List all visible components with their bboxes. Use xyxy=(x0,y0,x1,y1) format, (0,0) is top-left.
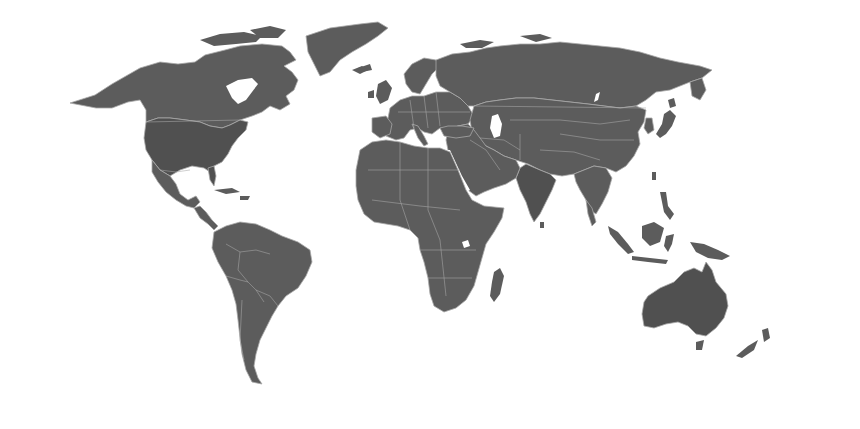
region-asia xyxy=(436,34,712,228)
region-south-america xyxy=(212,222,312,384)
world-map-svg xyxy=(0,0,860,429)
region-north-america xyxy=(70,26,298,230)
region-new-zealand xyxy=(736,328,770,358)
region-greenland xyxy=(306,22,388,76)
region-australia xyxy=(642,262,728,350)
world-map xyxy=(0,0,860,429)
region-indonesia xyxy=(608,172,730,264)
